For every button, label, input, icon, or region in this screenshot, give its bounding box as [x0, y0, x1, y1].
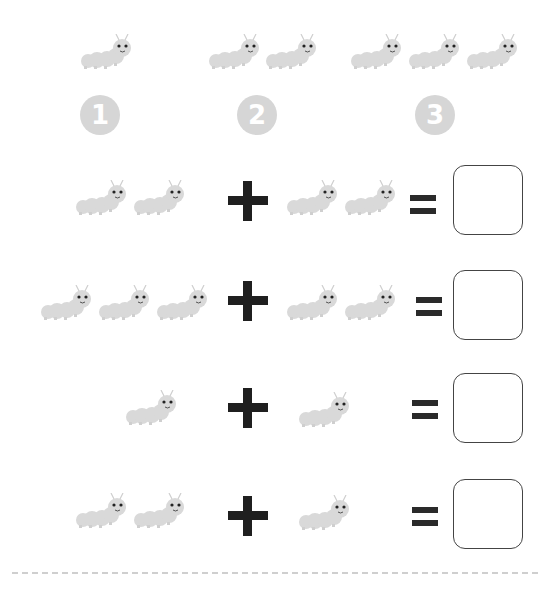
caterpillar-icon: [298, 392, 356, 428]
number-badge-3: 3: [415, 95, 455, 135]
caterpillar-icon: [298, 495, 356, 531]
caterpillar-icon: [208, 34, 266, 70]
caterpillar-icon: [40, 285, 98, 321]
caterpillar-icon: [75, 180, 133, 216]
equals-icon: [416, 297, 442, 317]
plus-icon: [228, 281, 268, 321]
caterpillar-icon: [98, 285, 156, 321]
number-badge-2: 2: [237, 95, 277, 135]
caterpillar-icon: [466, 34, 524, 70]
answer-box-4[interactable]: [453, 479, 523, 549]
equals-icon: [410, 195, 436, 215]
caterpillar-icon: [125, 390, 183, 426]
answer-box-2[interactable]: [453, 270, 523, 340]
caterpillar-icon: [350, 34, 408, 70]
answer-box-1[interactable]: [453, 165, 523, 235]
caterpillar-icon: [344, 180, 402, 216]
equals-icon: [412, 400, 438, 420]
caterpillar-icon: [265, 34, 323, 70]
caterpillar-icon: [286, 180, 344, 216]
caterpillar-icon: [156, 285, 214, 321]
plus-icon: [228, 496, 268, 536]
caterpillar-icon: [80, 34, 138, 70]
caterpillar-icon: [133, 180, 191, 216]
caterpillar-icon: [75, 493, 133, 529]
caterpillar-icon: [408, 34, 466, 70]
caterpillar-icon: [133, 493, 191, 529]
equals-icon: [412, 507, 438, 527]
cut-line-divider: [12, 572, 538, 574]
plus-icon: [228, 388, 268, 428]
answer-box-3[interactable]: [453, 373, 523, 443]
caterpillar-icon: [344, 285, 402, 321]
number-badge-1: 1: [80, 95, 120, 135]
caterpillar-icon: [286, 285, 344, 321]
plus-icon: [228, 181, 268, 221]
